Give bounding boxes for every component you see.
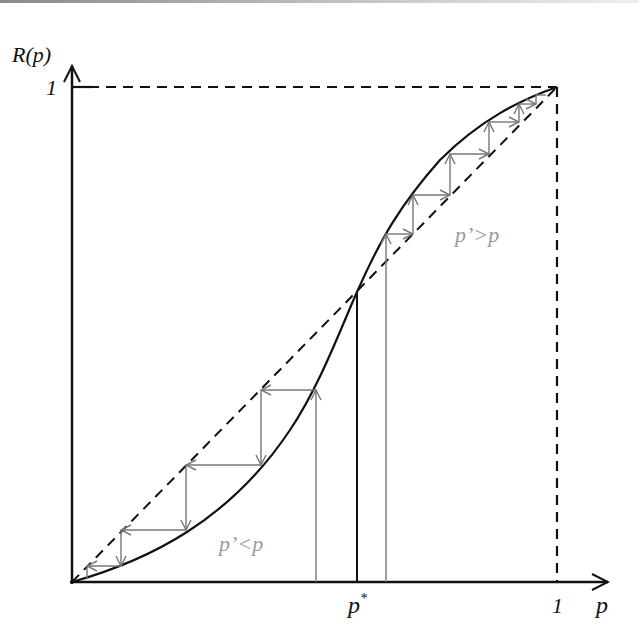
- y-axis-label: R(p): [11, 42, 51, 67]
- fixed-point-superscript: *: [360, 591, 367, 606]
- cobweb-lower: [87, 390, 316, 582]
- diagonal-line: [72, 87, 557, 582]
- fixed-point-label: p*: [346, 591, 367, 618]
- x-axis-label: p: [594, 592, 608, 618]
- cobweb-upper: [386, 95, 546, 582]
- y-tick-one-label: 1: [46, 75, 57, 100]
- axes: [70, 66, 608, 584]
- x-tick-one-label: 1: [552, 593, 563, 618]
- region-right-label: p’>p: [453, 222, 499, 247]
- cobweb-diagram: R(p) 1 1 p p* p’<p p’>p: [0, 0, 639, 644]
- region-left-label: p’<p: [217, 531, 263, 556]
